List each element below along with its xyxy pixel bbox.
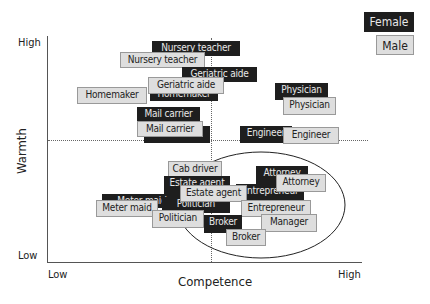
- label-male-manager: Manager: [261, 214, 317, 232]
- label-male-broker: Broker: [226, 229, 266, 246]
- label-male-nursery-teacher: Nursery teacher: [120, 52, 205, 68]
- y-tick-high: High: [18, 36, 41, 49]
- y-tick-low: Low: [18, 249, 37, 262]
- label-male-physician: Physician: [283, 97, 336, 115]
- label-male-engineer: Engineer: [283, 127, 339, 144]
- legend-female: Female: [364, 12, 414, 32]
- label-male-mail-carrier: Mail carrier: [137, 121, 203, 137]
- label-male-homemaker: Homemaker: [77, 87, 147, 104]
- label-male-politician: Politician: [152, 210, 204, 228]
- label-male-meter-maid: Meter maid: [96, 200, 158, 217]
- label-male-cab-driver: Cab driver: [168, 161, 222, 177]
- legend-male: Male: [376, 35, 414, 55]
- x-axis-title: Competence: [178, 274, 252, 289]
- x-axis: [47, 262, 362, 263]
- x-tick-low: Low: [48, 268, 67, 281]
- x-tick-high: High: [338, 268, 361, 281]
- label-male-estate-agent: Estate agent: [180, 185, 247, 202]
- y-axis: [47, 36, 48, 262]
- label-male-geriatric-aide: Geriatric aide: [148, 77, 224, 94]
- label-male-attorney: Attorney: [276, 174, 326, 192]
- y-axis-title: Warmth: [14, 128, 29, 174]
